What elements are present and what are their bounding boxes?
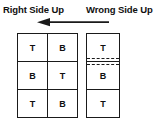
wrong-side-up-stack: T B T	[86, 33, 120, 118]
stack-row: B	[87, 62, 119, 90]
stack-cell: T	[100, 99, 106, 109]
fold-dash-line	[87, 58, 119, 59]
right-side-up-stack: T B B T T B	[17, 33, 78, 118]
stack-cell: B	[18, 62, 48, 89]
stack-row: T	[87, 90, 119, 117]
stack-cell: B	[48, 34, 77, 61]
stack-row: T B	[18, 34, 77, 62]
stack-comparison-diagram: T B B T T B T B T	[0, 0, 166, 126]
stack-cell: T	[18, 34, 48, 61]
stack-cell: T	[100, 43, 106, 53]
stack-row: B T	[18, 62, 77, 90]
stack-cell: T	[18, 90, 48, 117]
stack-cell: B	[48, 90, 77, 117]
stack-cell: T	[48, 62, 77, 89]
stack-row: T B	[18, 90, 77, 117]
stack-cell: B	[100, 71, 107, 81]
